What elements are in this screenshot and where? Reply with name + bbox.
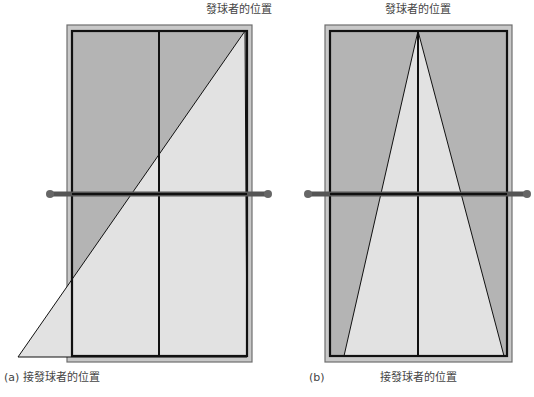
net-post-right: [523, 190, 531, 198]
panel-a-receiver-label: 接發球者的位置: [23, 371, 100, 384]
net-post-right: [264, 190, 272, 198]
panel-b-receiver-label: 接發球者的位置: [380, 372, 457, 384]
net-post-left: [46, 190, 54, 198]
panel-b-caption-letter: (b): [309, 372, 325, 384]
net-post-left: [304, 190, 312, 198]
panel-a-server-label: 發球者的位置: [206, 4, 272, 16]
panel-b-court: [304, 25, 531, 362]
panel-a-caption-letter: (a): [4, 371, 19, 384]
panel-a-court: [18, 25, 272, 362]
panel-b-server-label: 發球者的位置: [385, 4, 451, 16]
panel-a-caption: (a) 接發球者的位置: [4, 372, 100, 384]
diagram-canvas: [0, 0, 534, 397]
